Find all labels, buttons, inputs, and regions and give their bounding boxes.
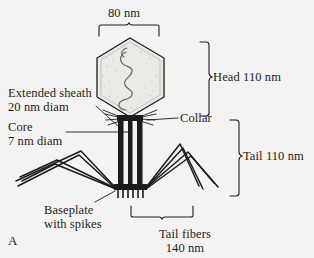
baseplate-line2-text: with spikes <box>44 217 102 231</box>
head-total-brace <box>200 42 212 116</box>
head-total-label: Head 110 nm <box>213 71 281 85</box>
tail-fibers-name-text: Tail fibers <box>159 227 211 241</box>
phage-diagram-figure: 80 nm Head 110 nm Tail 110 nm Collar Ext… <box>0 0 314 258</box>
sheath-name-text: Extended sheath <box>8 86 92 100</box>
baseplate-spikes <box>118 190 143 198</box>
baseplate-line1-text: Baseplate <box>44 203 102 217</box>
panel-label: A <box>8 234 18 248</box>
tail-fibers-label: Tail fibers 140 nm <box>159 227 211 255</box>
tail-fibers-brace <box>131 206 193 219</box>
leader-baseplate <box>95 191 115 202</box>
tail-fibers-right <box>146 144 218 189</box>
tail-total-label: Tail 110 nm <box>243 150 304 164</box>
phage-baseplate <box>114 184 147 198</box>
sheath-label: Extended sheath 20 nm diam <box>8 86 92 114</box>
core-size-text: 7 nm diam <box>8 134 62 148</box>
tail-fibers-left <box>16 151 116 189</box>
core-label: Core 7 nm diam <box>8 120 62 148</box>
head-width-label: 80 nm <box>108 7 140 21</box>
baseplate-label: Baseplate with spikes <box>44 203 102 231</box>
tail-total-brace <box>230 120 242 196</box>
collar-label: Collar <box>180 112 212 126</box>
phage-core <box>128 119 133 187</box>
core-name-text: Core <box>8 120 62 134</box>
leader-collar <box>147 118 178 120</box>
phage-tail-sheath <box>118 119 143 187</box>
sheath-size-text: 20 nm diam <box>8 100 92 114</box>
head-width-brace <box>99 23 159 36</box>
phage-head <box>97 38 164 117</box>
tail-fibers-size-text: 140 nm <box>159 241 211 255</box>
